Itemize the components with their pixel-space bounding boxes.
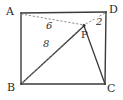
vertex-label-d: D bbox=[109, 4, 118, 15]
geometry-diagram-svg bbox=[0, 0, 123, 100]
measure-label-bp: 8 bbox=[42, 39, 50, 49]
point-p-marker bbox=[83, 24, 86, 27]
quadrilateral-outline bbox=[21, 12, 106, 84]
geometry-figure: A D B C P 6 8 2 bbox=[0, 0, 123, 100]
measure-label-ap: 6 bbox=[45, 21, 53, 31]
point-label-p: P bbox=[81, 30, 88, 40]
vertex-label-a: A bbox=[6, 6, 14, 17]
edge-ad bbox=[21, 12, 106, 13]
vertex-label-c: C bbox=[107, 83, 115, 94]
solid-cevians bbox=[21, 26, 105, 84]
edge-cd bbox=[105, 12, 106, 84]
vertex-label-b: B bbox=[7, 82, 15, 93]
measure-label-dp: 2 bbox=[95, 17, 103, 27]
